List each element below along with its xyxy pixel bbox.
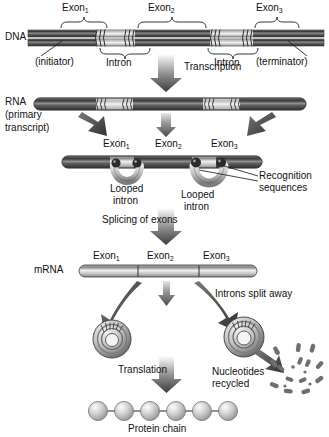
rna-label-line1: RNA [5, 96, 26, 107]
protein-chain-icon [89, 402, 238, 421]
transcription-label: Transcription [184, 61, 241, 72]
nucleotides-recycled-label-line1: Nucleotides [212, 366, 264, 377]
rna-label-line3: transcript) [5, 122, 49, 133]
rna-exon-1-label: Exon1 [103, 138, 130, 149]
introns-split-away-label: Introns split away [215, 288, 292, 299]
mrna-label: mRNA [34, 264, 63, 275]
gene-expression-diagram: DNA Exon1 Exon2 Exon3 (initiator) Intron… [0, 0, 329, 437]
rna-strand [34, 98, 306, 110]
looped-intron-2-label-line1: Looped [181, 189, 214, 200]
initiator-label: (initiator) [35, 56, 74, 67]
looped-intron-1-label-line1: Looped [110, 183, 143, 194]
mrna-exon-1-label: Exon1 [93, 250, 120, 261]
recognition-sequences-label-line2: sequences [259, 182, 307, 193]
rna-label-line2: (primary [5, 109, 42, 120]
recognition-sequences-label-line1: Recognition [259, 170, 312, 181]
dna-lower-strand [28, 39, 324, 46]
transcription-arrow [150, 54, 182, 92]
dna-upper-strand [28, 30, 324, 37]
mrna-exon-2-label: Exon2 [147, 250, 174, 261]
ribosome-left-icon [93, 320, 131, 358]
rna-to-loop-arrows [78, 112, 276, 137]
rna-exon-2-label: Exon2 [155, 138, 182, 149]
dna-strand [28, 30, 324, 57]
dna-exon-1-label: Exon1 [62, 2, 89, 13]
dna-exon-2-label: Exon2 [148, 2, 175, 13]
dna-exon-3-label: Exon3 [256, 2, 283, 13]
looped-rna [62, 156, 262, 183]
looped-intron-2-label-line2: intron [184, 201, 209, 212]
looped-intron-1-label-line2: intron [113, 195, 138, 206]
dna-label: DNA [5, 31, 26, 42]
dna-exon-braces [61, 17, 299, 28]
dna-intron-1-label: Intron [106, 57, 132, 68]
translation-label: Translation [118, 364, 167, 375]
rna-exon-3-label: Exon3 [211, 138, 238, 149]
nucleotides-recycled-label-line2: recycled [212, 378, 249, 389]
splicing-of-exons-label: Splicing of exons [102, 214, 178, 225]
protein-chain-label: Protein chain [128, 423, 186, 434]
mrna-strand [79, 265, 257, 277]
terminator-label: (terminator) [256, 56, 308, 67]
mrna-exon-3-label: Exon3 [203, 250, 230, 261]
